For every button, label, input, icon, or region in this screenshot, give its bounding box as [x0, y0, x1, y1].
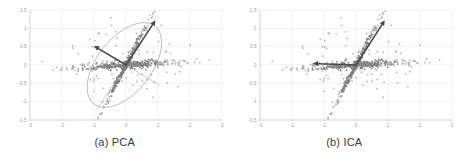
svg-text:-1: -1: [252, 99, 257, 104]
svg-text:0: 0: [253, 63, 256, 68]
panel-ica: 1.510.50-0.5-1-1.5-3-2-10123 (b) ICA: [230, 0, 459, 164]
svg-text:2: 2: [418, 123, 421, 128]
svg-text:-3: -3: [257, 123, 262, 128]
scatter-plot-ica: 1.510.50-0.5-1-1.5-3-2-10123: [230, 0, 459, 138]
svg-text:-0.5: -0.5: [19, 81, 27, 86]
svg-text:0: 0: [24, 63, 27, 68]
svg-text:-2: -2: [289, 123, 294, 128]
svg-text:3: 3: [221, 123, 224, 128]
caption-pca: (a) PCA: [0, 136, 230, 148]
svg-text:-1: -1: [321, 123, 326, 128]
svg-text:-0.5: -0.5: [248, 81, 256, 86]
svg-text:-1: -1: [22, 99, 27, 104]
figure-two-panel-comparison: 1.510.50-0.5-1-1.5-3-2-10123 (a) PCA 1.5…: [0, 0, 459, 164]
svg-text:1: 1: [386, 123, 389, 128]
svg-text:-1.5: -1.5: [248, 118, 256, 123]
svg-text:-2: -2: [60, 123, 65, 128]
plot-area-ica: 1.510.50-0.5-1-1.5-3-2-10123: [230, 0, 459, 138]
svg-text:1: 1: [157, 123, 160, 128]
svg-text:3: 3: [450, 123, 453, 128]
svg-text:-3: -3: [28, 123, 33, 128]
svg-text:1.5: 1.5: [20, 8, 27, 13]
scatter-plot-pca: 1.510.50-0.5-1-1.5-3-2-10123: [0, 0, 230, 138]
svg-text:1: 1: [24, 26, 27, 31]
svg-text:-1: -1: [92, 123, 97, 128]
svg-text:0.5: 0.5: [20, 44, 27, 49]
svg-text:0.5: 0.5: [250, 44, 257, 49]
svg-text:0: 0: [354, 123, 357, 128]
svg-text:0: 0: [125, 123, 128, 128]
panel-pca: 1.510.50-0.5-1-1.5-3-2-10123 (a) PCA: [0, 0, 230, 164]
svg-text:1.5: 1.5: [250, 8, 257, 13]
svg-text:2: 2: [189, 123, 192, 128]
caption-ica: (b) ICA: [230, 136, 459, 148]
svg-text:1: 1: [253, 26, 256, 31]
plot-area-pca: 1.510.50-0.5-1-1.5-3-2-10123: [0, 0, 230, 138]
svg-text:-1.5: -1.5: [19, 118, 27, 123]
